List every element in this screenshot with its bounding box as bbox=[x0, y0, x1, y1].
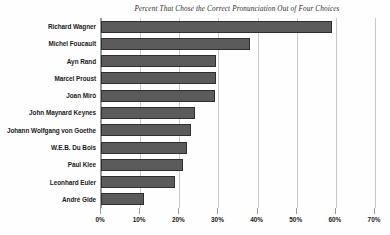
category-label: André Gide bbox=[0, 191, 96, 208]
category-label: Johann Wolfgang von Goethe bbox=[0, 122, 96, 139]
x-tick-mark bbox=[335, 208, 336, 214]
bar-row bbox=[101, 139, 187, 156]
bar-row bbox=[101, 173, 175, 190]
x-tick-label: 60% bbox=[328, 216, 341, 223]
bar bbox=[101, 38, 250, 50]
gridline-70pct bbox=[375, 18, 376, 208]
bar-chart-figure: Percent That Chose the Correct Pronuncia… bbox=[0, 0, 390, 235]
category-label: Michel Foucault bbox=[0, 35, 96, 52]
category-label: Leonhard Euler bbox=[0, 173, 96, 190]
x-tick-mark bbox=[100, 208, 101, 214]
bar bbox=[101, 124, 191, 136]
chart-title: Percent That Chose the Correct Pronuncia… bbox=[100, 4, 374, 14]
x-tick-label: 30% bbox=[211, 216, 224, 223]
category-label: Joan Miró bbox=[0, 87, 96, 104]
x-tick-label: 20% bbox=[172, 216, 185, 223]
bar-row bbox=[101, 35, 250, 52]
x-tick-label: 40% bbox=[250, 216, 263, 223]
bar-row bbox=[101, 156, 183, 173]
bar-series bbox=[101, 18, 374, 208]
category-label: Richard Wagner bbox=[0, 18, 96, 35]
bar bbox=[101, 21, 332, 33]
bar bbox=[101, 107, 195, 119]
bar bbox=[101, 72, 216, 84]
bar bbox=[101, 159, 183, 171]
x-tick-label: 70% bbox=[368, 216, 381, 223]
x-tick-mark bbox=[374, 208, 375, 214]
x-tick-mark bbox=[257, 208, 258, 214]
bar-row bbox=[101, 191, 144, 208]
category-axis-labels: Richard WagnerMichel FoucaultAyn RandMar… bbox=[0, 18, 96, 208]
bar-row bbox=[101, 18, 332, 35]
category-label: Paul Klee bbox=[0, 156, 96, 173]
plot-area bbox=[100, 18, 374, 208]
bar bbox=[101, 90, 215, 102]
bar-row bbox=[101, 104, 195, 121]
bar-row bbox=[101, 70, 216, 87]
x-tick-label: 0% bbox=[95, 216, 104, 223]
x-tick-mark bbox=[296, 208, 297, 214]
x-tick-label: 10% bbox=[133, 216, 146, 223]
category-label: Ayn Rand bbox=[0, 53, 96, 70]
x-tick-mark bbox=[178, 208, 179, 214]
category-label: W.E.B. Du Bois bbox=[0, 139, 96, 156]
x-tick-mark bbox=[217, 208, 218, 214]
bar-row bbox=[101, 53, 216, 70]
x-tick-mark bbox=[139, 208, 140, 214]
bar bbox=[101, 55, 216, 67]
category-label: John Maynard Keynes bbox=[0, 104, 96, 121]
bar-row bbox=[101, 122, 191, 139]
bar bbox=[101, 176, 175, 188]
x-axis: 0%10%20%30%40%50%60%70% bbox=[100, 208, 374, 230]
x-tick-label: 50% bbox=[289, 216, 302, 223]
bar bbox=[101, 193, 144, 205]
category-label: Marcel Proust bbox=[0, 70, 96, 87]
bar bbox=[101, 142, 187, 154]
bar-row bbox=[101, 87, 215, 104]
